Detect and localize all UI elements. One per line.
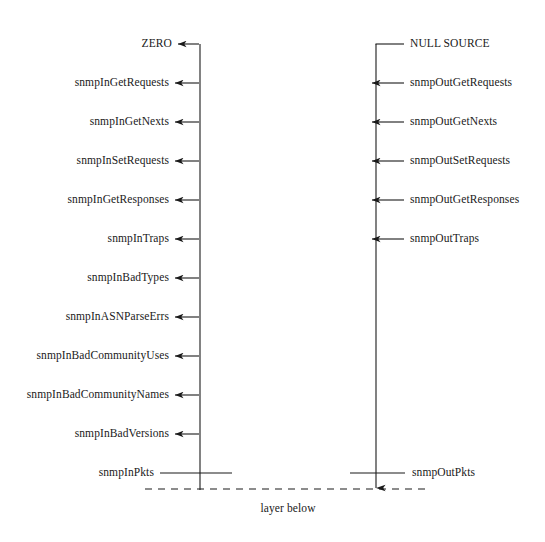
left-label-snmpinbadversions: snmpInBadVersions — [75, 428, 169, 440]
right-label-snmpoutsetrequests: snmpOutSetRequests — [410, 155, 510, 167]
left-label-snmpinpkts: snmpInPkts — [99, 467, 154, 479]
left-label-snmpinsetrequests: snmpInSetRequests — [77, 155, 169, 167]
left-label-snmpinbadtypes: snmpInBadTypes — [87, 272, 169, 284]
right-label-snmpoutpkts: snmpOutPkts — [412, 467, 475, 479]
layer-below-caption: layer below — [260, 503, 315, 515]
right-label-snmpoutgetrequests: snmpOutGetRequests — [410, 77, 512, 89]
left-label-snmpingetrequests: snmpInGetRequests — [75, 77, 169, 89]
right-label-nullsource: NULL SOURCE — [410, 38, 490, 50]
left-label-snmpingetresponses: snmpInGetResponses — [68, 194, 169, 206]
left-label-snmpinasnparseerrs: snmpInASNParseErrs — [66, 311, 169, 323]
diagram-canvas: ZERO snmpInGetRequests snmpInGetNexts sn… — [0, 0, 545, 542]
right-label-snmpoutgetresponses: snmpOutGetResponses — [410, 194, 519, 206]
right-label-snmpoutgetnexts: snmpOutGetNexts — [410, 116, 497, 128]
left-label-snmpintraps: snmpInTraps — [108, 233, 169, 245]
left-label-snmpinbadcommunityuses: snmpInBadCommunityUses — [36, 350, 169, 362]
left-label-snmpinbadcommunitynames: snmpInBadCommunityNames — [27, 389, 169, 401]
left-label-zero: ZERO — [142, 38, 172, 50]
left-label-snmpingetnexts: snmpInGetNexts — [90, 116, 169, 128]
right-label-snmpouttraps: snmpOutTraps — [410, 233, 479, 245]
